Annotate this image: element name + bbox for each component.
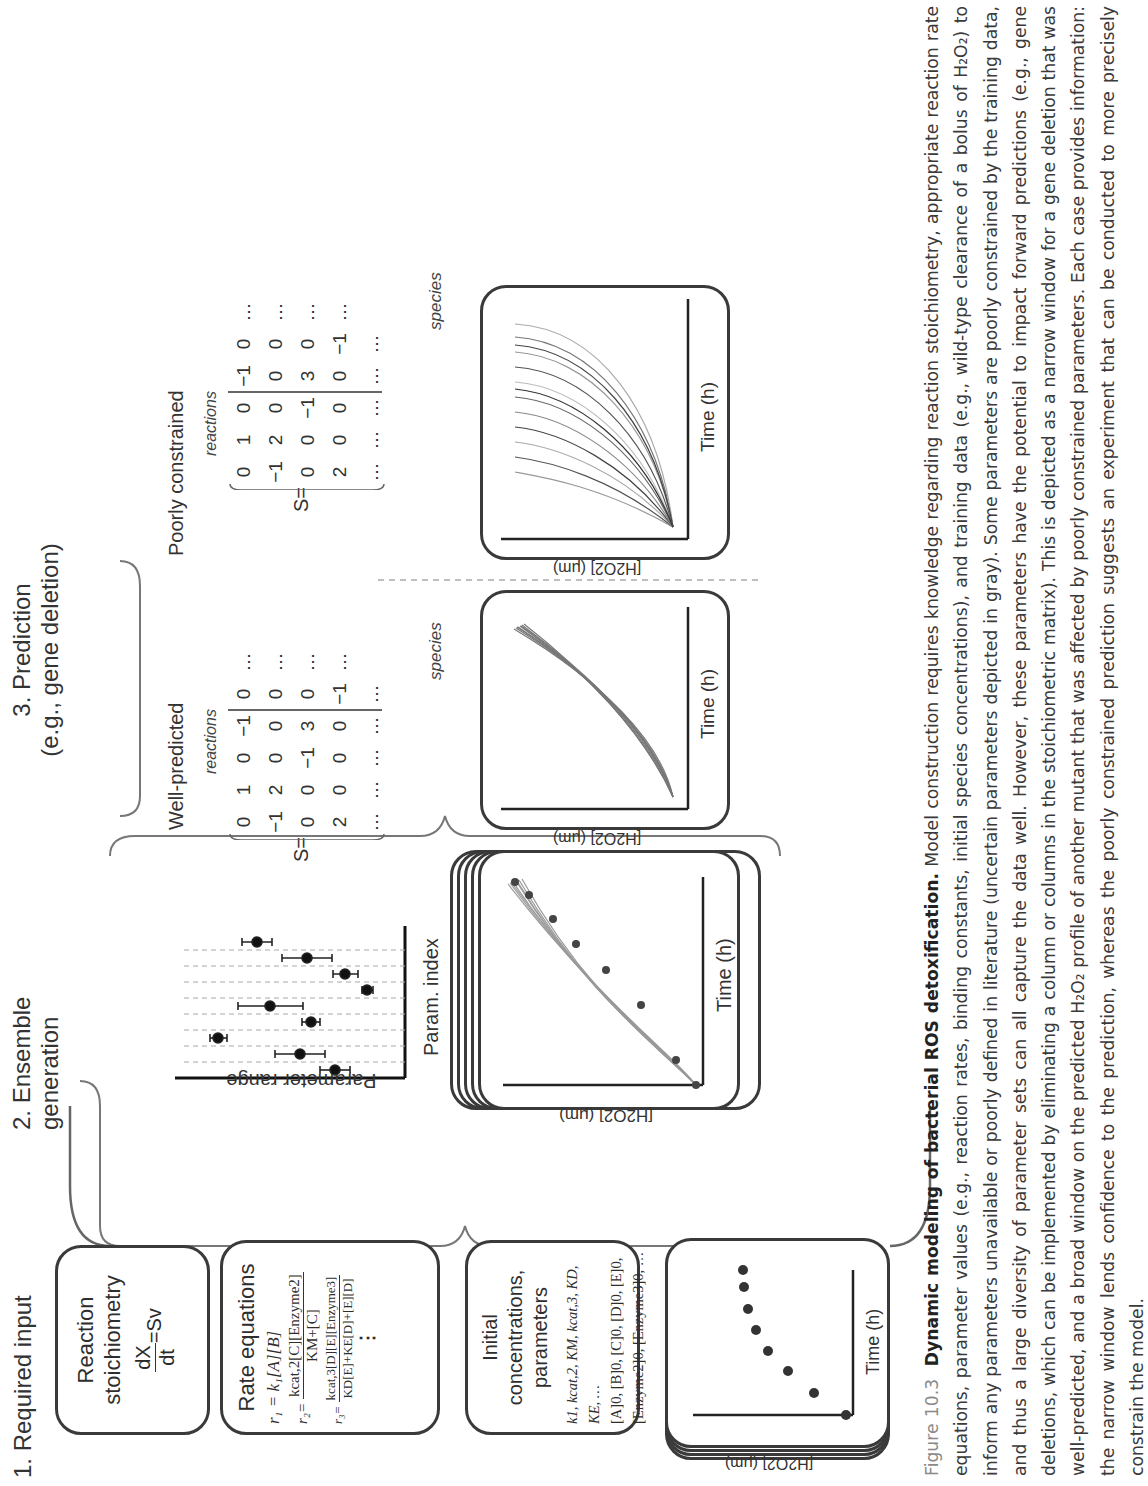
svg-text:0: 0: [265, 753, 286, 764]
ensemble-xlabel: Time (h): [713, 938, 736, 1012]
svg-text:−1: −1: [297, 747, 318, 769]
caption-figure-number: Figure 10.3: [922, 1379, 942, 1476]
training-ylabel: [H2O2] (μm): [725, 1454, 813, 1472]
svg-text:−1: −1: [297, 397, 318, 419]
ensemble-plot: Time (h) [H2O2] (μm): [478, 850, 740, 1110]
svg-text:0: 0: [233, 339, 254, 350]
param-xlabel: Param. index: [420, 938, 443, 1056]
initial-conc-title: Initial concentrations, parameters: [478, 1251, 553, 1424]
poorly-xlabel: Time (h): [697, 382, 719, 452]
svg-text:0: 0: [329, 403, 350, 414]
svg-text:…: …: [265, 653, 286, 672]
poorly-ylabel: [H2O2] (μm): [553, 559, 641, 577]
svg-text:0: 0: [233, 817, 254, 828]
svg-text:0: 0: [297, 435, 318, 446]
svg-text:−1: −1: [233, 365, 254, 387]
svg-text:0: 0: [265, 371, 286, 382]
caption-title: Dynamic modeling of bacterial ROS detoxi…: [922, 873, 942, 1366]
svg-text:2: 2: [265, 435, 286, 446]
svg-text:…: …: [361, 463, 382, 482]
svg-text:0: 0: [297, 785, 318, 796]
svg-text:…: …: [361, 367, 382, 386]
ensemble-chart: [481, 853, 737, 1107]
svg-text:0: 0: [233, 753, 254, 764]
poorly-constrained-label: Poorly constrained: [165, 390, 188, 556]
stoichiometry-equation: dXdt=Sv: [132, 1248, 179, 1432]
svg-text:0: 0: [297, 689, 318, 700]
svg-text:…: …: [233, 653, 254, 672]
svg-text:0: 0: [297, 817, 318, 828]
svg-text:0: 0: [329, 753, 350, 764]
svg-text:−1: −1: [265, 461, 286, 483]
rate-equations-box: Rate equations r₁ = k₁[A][B] r₂= kcat,2[…: [220, 1240, 440, 1435]
svg-text:…: …: [361, 749, 382, 768]
svg-text:…: …: [361, 431, 382, 450]
rate-eq-r2: r₂= kcat,2[C][Enzyme2]KM+[C]: [286, 1251, 321, 1424]
svg-text:0: 0: [329, 371, 350, 382]
section-title-prediction: 3. Prediction (e.g., gene deletion): [8, 540, 64, 760]
well-xlabel: Time (h): [697, 669, 719, 739]
svg-text:…: …: [297, 653, 318, 672]
initial-conc-box: Initial concentrations, parameters k1, k…: [465, 1240, 640, 1435]
svg-text:0: 0: [265, 689, 286, 700]
well-ylabel: [H2O2] (μm): [553, 829, 641, 847]
svg-text:0: 0: [233, 467, 254, 478]
svg-text:1: 1: [233, 785, 254, 796]
initial-conc-list: k1, kcat,2, KM, kcat,3, KD, KE, … [A]0, …: [561, 1251, 649, 1424]
svg-text:0: 0: [265, 339, 286, 350]
poorly-species-label: species: [426, 272, 446, 330]
svg-text:…: …: [233, 303, 254, 322]
svg-text:1: 1: [233, 435, 254, 446]
stoichiometry-title: Reaction stoichiometry: [72, 1248, 126, 1432]
well-matrix-prefix: S=: [290, 837, 313, 862]
well-predicted-chart: [483, 593, 727, 827]
svg-text:0: 0: [329, 435, 350, 446]
training-data-chart: [668, 1241, 887, 1445]
figure-caption: Figure 10.3 Dynamic modeling of bacteria…: [918, 6, 1148, 1476]
svg-text:…: …: [361, 781, 382, 800]
ensemble-ylabel: [H2O2] (μm): [559, 1105, 653, 1125]
well-species-label: species: [426, 622, 446, 680]
svg-text:0: 0: [329, 785, 350, 796]
caption-body: Model construction requires knowledge re…: [922, 6, 1147, 1476]
poorly-matrix-prefix: S=: [290, 487, 313, 512]
svg-text:…: …: [297, 303, 318, 322]
well-predicted-label: Well-predicted: [165, 703, 188, 830]
svg-text:−1: −1: [265, 811, 286, 833]
svg-text:−1: −1: [329, 333, 350, 355]
well-predicted-plot: Time (h) [H2O2] (μm): [480, 590, 730, 830]
svg-text:…: …: [265, 303, 286, 322]
rate-equations-title: Rate equations: [233, 1251, 260, 1424]
svg-text:−1: −1: [329, 683, 350, 705]
svg-text:0: 0: [297, 467, 318, 478]
svg-text:…: …: [361, 813, 382, 832]
well-reactions-label: reactions: [202, 709, 220, 774]
svg-text:…: …: [329, 303, 350, 322]
svg-text:2: 2: [329, 467, 350, 478]
training-xlabel: Time (h): [863, 1309, 884, 1375]
poorly-matrix-svg: 010−10…−12000…00−130…2000−1………………: [222, 260, 422, 490]
parameter-range-plot: [170, 916, 420, 1086]
svg-text:3: 3: [297, 371, 318, 382]
stoichiometry-box: Reaction stoichiometry dXdt=Sv: [55, 1245, 210, 1435]
svg-text:…: …: [361, 399, 382, 418]
poorly-reactions-label: reactions: [202, 391, 220, 456]
svg-text:…: …: [361, 717, 382, 736]
parameter-range-chart: [170, 916, 420, 1086]
poorly-constrained-chart: [483, 288, 727, 557]
svg-text:2: 2: [265, 785, 286, 796]
svg-text:…: …: [361, 685, 382, 704]
svg-text:…: …: [361, 335, 382, 354]
svg-text:0: 0: [233, 689, 254, 700]
section-title-ensemble: 2. Ensemble generation: [8, 997, 64, 1130]
svg-text:0: 0: [265, 403, 286, 414]
svg-text:−1: −1: [233, 715, 254, 737]
svg-text:0: 0: [297, 339, 318, 350]
svg-text:…: …: [329, 653, 350, 672]
svg-text:2: 2: [329, 817, 350, 828]
well-matrix-svg: 010−10…−12000…00−130…2000−1………………: [222, 610, 422, 840]
svg-text:3: 3: [297, 721, 318, 732]
param-ylabel: Parameter range: [226, 1069, 376, 1092]
poorly-constrained-plot: Time (h) [H2O2] (μm): [480, 285, 730, 560]
